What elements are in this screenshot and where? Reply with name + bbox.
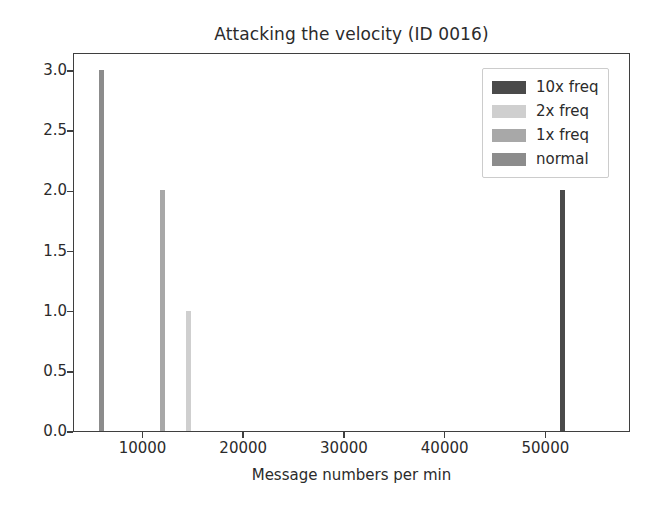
x-tick-mark: [343, 432, 345, 438]
y-tick-label: 1.5: [13, 244, 67, 259]
legend-swatch-icon: [492, 105, 526, 118]
y-tick-label: 0.0: [13, 424, 67, 439]
y-tick-label: 2.0: [13, 183, 67, 198]
y-tick-mark: [67, 70, 73, 72]
y-tick-mark: [67, 311, 73, 313]
legend-swatch-icon: [492, 129, 526, 142]
x-tick-mark: [142, 432, 144, 438]
y-tick-mark: [67, 371, 73, 373]
y-tick-mark: [67, 191, 73, 193]
legend-swatch-icon: [492, 81, 526, 94]
legend-item[interactable]: 1x freq: [492, 123, 599, 147]
legend: 10x freq2x freq1x freqnormal: [482, 68, 609, 178]
y-tick-mark: [67, 130, 73, 132]
x-tick-label: 50000: [485, 440, 605, 456]
x-tick-mark: [242, 432, 244, 438]
y-tick-label: 2.5: [13, 123, 67, 138]
bar: [160, 190, 165, 431]
legend-item[interactable]: 2x freq: [492, 99, 599, 123]
figure-canvas: Attacking the velocity (ID 0016) 0.00.51…: [0, 0, 657, 506]
legend-item[interactable]: 10x freq: [492, 75, 599, 99]
bar: [99, 70, 104, 431]
legend-label: 2x freq: [536, 103, 589, 119]
legend-label: normal: [536, 151, 589, 167]
legend-item[interactable]: normal: [492, 147, 599, 171]
legend-label: 10x freq: [536, 79, 599, 95]
y-tick-mark: [67, 431, 73, 433]
chart-title: Attacking the velocity (ID 0016): [73, 24, 630, 44]
y-tick-label: 0.5: [13, 364, 67, 379]
legend-label: 1x freq: [536, 127, 589, 143]
legend-swatch-icon: [492, 153, 526, 166]
x-tick-mark: [444, 432, 446, 438]
y-tick-label: 1.0: [13, 304, 67, 319]
y-tick-mark: [67, 251, 73, 253]
bar: [560, 190, 565, 431]
y-tick-label: 3.0: [13, 63, 67, 78]
x-axis-label: Message numbers per min: [73, 466, 630, 484]
bar: [186, 311, 191, 431]
x-tick-mark: [545, 432, 547, 438]
